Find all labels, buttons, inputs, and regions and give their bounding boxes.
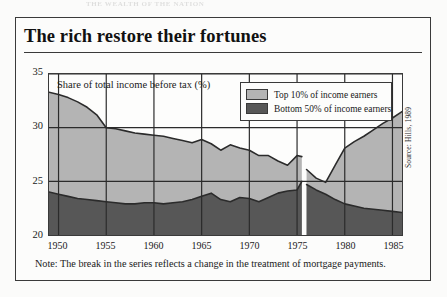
legend-label-top: Top 10% of income earners (274, 90, 377, 100)
title-divider (24, 52, 422, 53)
y-tick-20: 20 (19, 229, 43, 240)
figure-title: The rich restore their fortunes (24, 26, 267, 47)
x-tick-1955: 1955 (83, 240, 129, 251)
figure-root: THE WEALTH OF THE NATION The rich restor… (0, 0, 447, 297)
legend-label-bottom: Bottom 50% of income earners (274, 104, 391, 114)
x-tick-1965: 1965 (179, 240, 225, 251)
y-tick-25: 25 (19, 175, 43, 186)
source-credit: Source: Hills, 1989 (404, 84, 413, 168)
y-tick-35: 35 (19, 66, 43, 77)
top-bleed-text: THE WEALTH OF THE NATION (86, 0, 356, 6)
legend-swatch-top-icon (246, 89, 268, 100)
axis-annotation: Share of total income before tax (%) (57, 79, 210, 90)
x-tick-1960: 1960 (131, 240, 177, 251)
x-tick-1985: 1985 (370, 240, 416, 251)
figure-note: Note: The break in the series reflects a… (35, 258, 386, 269)
legend-swatch-bottom-icon (246, 103, 268, 114)
y-tick-30: 30 (19, 120, 43, 131)
x-tick-1975: 1975 (274, 240, 320, 251)
legend-item-bottom: Bottom 50% of income earners (246, 102, 386, 115)
x-tick-1970: 1970 (226, 240, 272, 251)
legend-item-top: Top 10% of income earners (246, 88, 386, 101)
chart-legend: Top 10% of income earners Bottom 50% of … (240, 82, 392, 121)
x-tick-1950: 1950 (35, 240, 81, 251)
x-tick-1980: 1980 (322, 240, 368, 251)
